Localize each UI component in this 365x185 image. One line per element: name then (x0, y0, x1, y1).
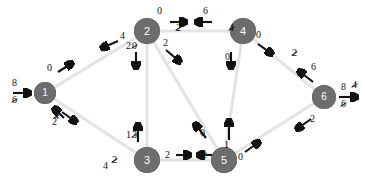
node-3-label: 3 (144, 155, 150, 166)
flow-network-diagram: 1 2 3 4 5 6 8 6 8 6 0 4 4 2 2 4 0 2 6 4 … (0, 0, 365, 185)
label-5-4: 1 (224, 140, 229, 150)
edge-2-5 (147, 31, 224, 160)
label-3-2-previous: 3 (132, 130, 137, 140)
label-2-4-previous: 2 (176, 23, 181, 33)
label-5-3: 2 (202, 150, 207, 160)
sink-flow-label: 8 6 (341, 82, 346, 109)
arrow-2-1 (102, 41, 118, 48)
label-4-5: 0 (225, 52, 230, 62)
node-6[interactable]: 6 (312, 85, 336, 109)
arrow-2-5 (166, 50, 180, 62)
node-1[interactable]: 1 (34, 82, 56, 104)
arrow-1-2 (58, 63, 72, 72)
node-2[interactable]: 2 (134, 18, 160, 44)
label-5-2: 0 (200, 128, 205, 138)
label-1-2: 0 (47, 63, 52, 73)
edge-1-3 (45, 93, 147, 160)
label-2-1: 4 (120, 31, 125, 41)
source-flow-previous: 6 (12, 95, 17, 105)
label-4-2-previous: 4 (229, 23, 234, 33)
label-2-3-group: 2 0 (126, 41, 137, 51)
node-3[interactable]: 3 (134, 147, 160, 173)
label-2-3: 2 (126, 41, 131, 51)
label-4-6-previous: 2 (292, 48, 297, 58)
label-4-2: 6 (203, 6, 208, 16)
source-flow-label: 8 6 (12, 78, 17, 105)
node-1-label: 1 (42, 88, 48, 98)
label-3-5: 2 (165, 150, 170, 160)
node-4-label: 4 (240, 26, 246, 37)
label-1-3: 2 (52, 117, 57, 127)
node-2-label: 2 (144, 26, 150, 37)
label-2-4: 0 (157, 6, 162, 16)
label-6-4: 6 (311, 62, 316, 72)
sink-flow-previous: 6 (341, 99, 346, 109)
source-flow-current: 8 (12, 78, 17, 88)
label-2-5: 2 (163, 38, 168, 48)
label-5-6: 0 (238, 152, 243, 162)
label-3-2: 1 (126, 130, 131, 140)
label-3-1: 4 (103, 161, 108, 171)
label-4-6: 0 (256, 30, 261, 40)
label-2-3-previous: 0 (132, 41, 137, 51)
node-5-label: 5 (221, 155, 227, 166)
node-5[interactable]: 5 (211, 147, 237, 173)
label-3-1-previous: 2 (112, 155, 117, 165)
label-3-2-group: 1 3 (126, 130, 137, 140)
label-6-4-previous: 4 (352, 80, 357, 90)
arrow-6-5 (297, 119, 311, 129)
arrow-4-6 (258, 44, 272, 54)
sink-flow-current: 8 (341, 82, 346, 92)
node-6-label: 6 (321, 92, 327, 102)
label-6-5: 2 (310, 114, 315, 124)
